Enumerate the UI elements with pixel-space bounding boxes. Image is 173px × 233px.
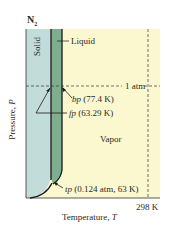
- chart-title: N2: [27, 15, 37, 27]
- liquid-region: [51, 29, 62, 184]
- phase-diagram: N2 Pressure, P Temperature, T 298 K Soli…: [0, 0, 173, 233]
- one-atm-label: 1 atm: [125, 82, 145, 91]
- bp-abbr: bp: [72, 94, 81, 104]
- x-tick-298k: 298 K: [136, 203, 158, 212]
- liquid-label: Liquid: [71, 37, 95, 46]
- title-subscript: 2: [34, 21, 37, 27]
- y-axis-label-text: Pressure,: [7, 105, 17, 140]
- bp-value: (77.4 K): [81, 94, 114, 104]
- fp-abbr: fp: [69, 108, 76, 118]
- x-axis-label: Temperature, T: [62, 213, 117, 222]
- tp-abbr: tp: [65, 184, 72, 194]
- tp-value: (0.124 atm, 63 K): [72, 184, 139, 194]
- boiling-point-label: bp (77.4 K): [72, 95, 114, 104]
- x-axis-symbol: T: [112, 212, 117, 222]
- triple-point-label: tp (0.124 atm, 63 K): [65, 185, 139, 194]
- y-axis-symbol: P: [7, 99, 17, 105]
- y-axis-label: Pressure, P: [8, 90, 17, 150]
- x-axis-label-text: Temperature,: [62, 212, 112, 222]
- freezing-point-label: fp (63.29 K): [69, 109, 113, 118]
- solid-label: Solid: [33, 37, 42, 56]
- vapor-label: Vapor: [100, 135, 122, 144]
- fp-value: (63.29 K): [76, 108, 113, 118]
